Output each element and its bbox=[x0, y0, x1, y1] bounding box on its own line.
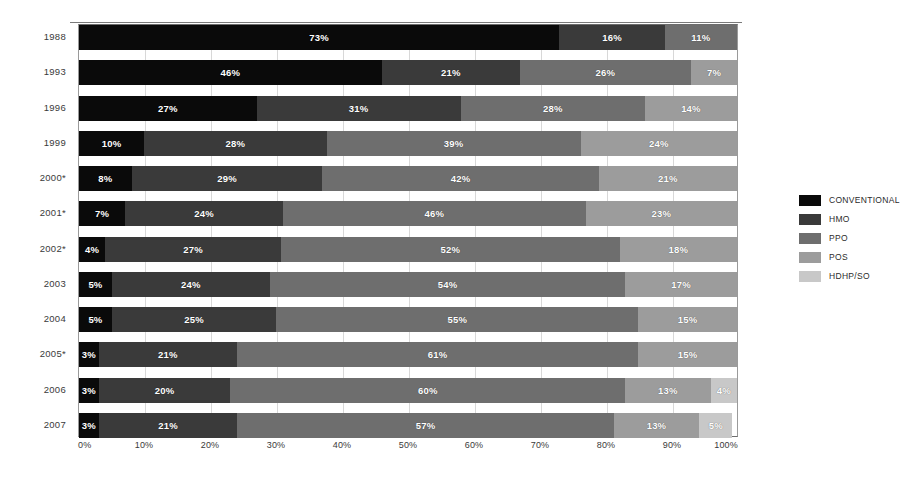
bar-row[interactable]: 46%21%26%7% bbox=[79, 60, 737, 85]
bar-segment[interactable]: 27% bbox=[79, 96, 257, 121]
bar-segment-label: 5% bbox=[709, 420, 723, 431]
bar-segment[interactable]: 55% bbox=[276, 307, 638, 332]
bar-segment[interactable]: 31% bbox=[257, 96, 461, 121]
bar-row[interactable]: 4%27%52%18% bbox=[79, 237, 737, 262]
year-label: 1993 bbox=[44, 59, 66, 84]
bar-segment[interactable]: 26% bbox=[520, 60, 691, 85]
plot-area: 73%16%11%46%21%26%7%27%31%28%14%10%28%39… bbox=[78, 24, 738, 437]
bar-segment[interactable]: 7% bbox=[691, 60, 737, 85]
year-label: 1988 bbox=[44, 24, 66, 49]
bar-segment-label: 60% bbox=[418, 385, 438, 396]
x-axis-tick-label: 20% bbox=[201, 440, 220, 450]
bar-segment[interactable]: 28% bbox=[461, 96, 645, 121]
bar-segment-label: 27% bbox=[183, 244, 203, 255]
bar-segment[interactable]: 5% bbox=[699, 413, 732, 438]
bar-segment[interactable]: 15% bbox=[638, 307, 737, 332]
x-axis-tick-label: 70% bbox=[531, 440, 550, 450]
x-axis-tick-label: 30% bbox=[267, 440, 286, 450]
bar-segment[interactable]: 21% bbox=[599, 166, 737, 191]
bar-row[interactable]: 5%24%54%17% bbox=[79, 272, 737, 297]
bar-segment[interactable]: 14% bbox=[645, 96, 737, 121]
bar-segment-label: 20% bbox=[155, 385, 175, 396]
bar-segment[interactable]: 46% bbox=[283, 201, 586, 226]
bar-segment[interactable]: 18% bbox=[620, 237, 737, 262]
bar-segment-label: 5% bbox=[88, 314, 102, 325]
bar-segment-label: 4% bbox=[717, 385, 731, 396]
bar-segment-label: 24% bbox=[181, 279, 201, 290]
bar-segment-label: 21% bbox=[658, 173, 678, 184]
bar-segment-label: 21% bbox=[441, 67, 461, 78]
bar-segment[interactable]: 3% bbox=[79, 413, 99, 438]
year-label: 2000* bbox=[40, 165, 66, 190]
bar-segment[interactable]: 16% bbox=[559, 25, 664, 50]
bar-segment[interactable]: 20% bbox=[99, 378, 231, 403]
bar-segment[interactable]: 21% bbox=[99, 413, 238, 438]
bar-segment-label: 10% bbox=[102, 138, 122, 149]
bar-segment[interactable]: 5% bbox=[79, 307, 112, 332]
bar-segment[interactable]: 13% bbox=[614, 413, 700, 438]
bar-segment[interactable]: 13% bbox=[625, 378, 711, 403]
bar-segment[interactable]: 15% bbox=[638, 342, 737, 367]
bar-segment-label: 16% bbox=[602, 32, 622, 43]
bar-segment[interactable]: 54% bbox=[270, 272, 625, 297]
bar-segment[interactable]: 25% bbox=[112, 307, 277, 332]
x-axis-tick-label: 0% bbox=[78, 440, 91, 450]
bar-row[interactable]: 3%20%60%13%4% bbox=[79, 378, 737, 403]
bar-segment[interactable]: 29% bbox=[132, 166, 323, 191]
legend-item[interactable]: PPO bbox=[799, 229, 895, 247]
bar-segment[interactable]: 28% bbox=[144, 131, 326, 156]
bar-segment-label: 15% bbox=[678, 314, 698, 325]
legend-item[interactable]: HMO bbox=[799, 210, 895, 228]
bar-segment[interactable]: 7% bbox=[79, 201, 125, 226]
bar-segment-label: 21% bbox=[158, 420, 178, 431]
bar-segment-label: 73% bbox=[309, 32, 329, 43]
bar-segment-label: 52% bbox=[441, 244, 461, 255]
bar-row[interactable]: 3%21%61%15% bbox=[79, 342, 737, 367]
bar-segment-label: 14% bbox=[681, 103, 701, 114]
bar-row[interactable]: 7%24%46%23% bbox=[79, 201, 737, 226]
legend-label: HMO bbox=[829, 214, 850, 224]
bar-segment[interactable]: 39% bbox=[327, 131, 581, 156]
bar-row[interactable]: 10%28%39%24% bbox=[79, 131, 737, 156]
bar-segment[interactable]: 8% bbox=[79, 166, 132, 191]
bar-row[interactable]: 73%16%11% bbox=[79, 25, 737, 50]
bar-segment[interactable]: 27% bbox=[105, 237, 281, 262]
bar-row[interactable]: 5%25%55%15% bbox=[79, 307, 737, 332]
bar-segment-label: 26% bbox=[596, 67, 616, 78]
bar-segment[interactable]: 73% bbox=[79, 25, 559, 50]
legend-item[interactable]: POS bbox=[799, 248, 895, 266]
bar-segment[interactable]: 4% bbox=[79, 237, 105, 262]
bar-row[interactable]: 27%31%28%14% bbox=[79, 96, 737, 121]
bar-segment[interactable]: 24% bbox=[125, 201, 283, 226]
legend-swatch-icon bbox=[799, 214, 821, 225]
bar-segment-label: 5% bbox=[88, 279, 102, 290]
bar-segment-label: 27% bbox=[158, 103, 178, 114]
bar-segment[interactable]: 21% bbox=[382, 60, 520, 85]
bar-segment[interactable]: 23% bbox=[586, 201, 737, 226]
bar-segment-label: 23% bbox=[652, 208, 672, 219]
bar-segment[interactable]: 17% bbox=[625, 272, 737, 297]
bar-segment[interactable]: 46% bbox=[79, 60, 382, 85]
bar-rows: 73%16%11%46%21%26%7%27%31%28%14%10%28%39… bbox=[79, 25, 737, 436]
bar-segment[interactable]: 24% bbox=[581, 131, 737, 156]
bar-segment[interactable]: 11% bbox=[665, 25, 737, 50]
bar-segment[interactable]: 61% bbox=[237, 342, 638, 367]
bar-segment-label: 7% bbox=[95, 208, 109, 219]
bar-segment[interactable]: 52% bbox=[281, 237, 620, 262]
bar-segment[interactable]: 24% bbox=[112, 272, 270, 297]
x-axis-tick-label: 80% bbox=[597, 440, 616, 450]
bar-segment[interactable]: 10% bbox=[79, 131, 144, 156]
bar-segment[interactable]: 5% bbox=[79, 272, 112, 297]
bar-segment[interactable]: 3% bbox=[79, 378, 99, 403]
bar-segment[interactable]: 21% bbox=[99, 342, 237, 367]
bar-segment[interactable]: 3% bbox=[79, 342, 99, 367]
bar-row[interactable]: 3%21%57%13%5% bbox=[79, 413, 737, 438]
bar-row[interactable]: 8%29%42%21% bbox=[79, 166, 737, 191]
legend-item[interactable]: CONVENTIONAL bbox=[799, 191, 895, 209]
legend-item[interactable]: HDHP/SO bbox=[799, 267, 895, 285]
bar-segment[interactable]: 60% bbox=[230, 378, 625, 403]
bar-segment[interactable]: 42% bbox=[322, 166, 598, 191]
bar-segment[interactable]: 4% bbox=[711, 378, 737, 403]
bar-segment[interactable]: 57% bbox=[237, 413, 613, 438]
bar-segment-label: 25% bbox=[184, 314, 204, 325]
